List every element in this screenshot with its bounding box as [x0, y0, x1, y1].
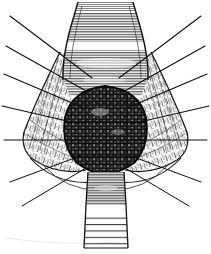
engraving-figure — [0, 0, 211, 254]
engraving-canvas — [0, 0, 211, 254]
lower-band — [82, 170, 132, 250]
